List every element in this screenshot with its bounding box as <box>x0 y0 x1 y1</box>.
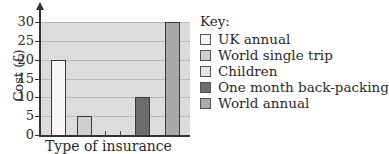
bar-one-month-back-packing <box>135 97 150 135</box>
bar-world-annual <box>165 22 180 135</box>
y-tick-label: 30 <box>12 15 34 28</box>
bar-uk-annual <box>51 60 66 135</box>
legend-label: World annual <box>218 95 309 111</box>
legend-item: UK annual <box>200 31 389 47</box>
legend-swatch-icon <box>200 82 211 93</box>
y-tick-mark <box>35 116 40 117</box>
legend-swatch-icon <box>200 98 211 109</box>
legend-label: One month back-packing <box>218 79 389 95</box>
y-tick-mark <box>35 135 40 136</box>
x-axis-title: Type of insurance <box>45 138 172 154</box>
legend-item: World single trip <box>200 47 389 63</box>
legend-title: Key: <box>200 13 389 29</box>
y-axis-title: Cost (£) <box>11 46 26 106</box>
legend-item: World annual <box>200 95 389 111</box>
legend-label: UK annual <box>218 31 290 47</box>
y-tick-mark <box>35 97 40 98</box>
y-tick-mark <box>35 41 40 42</box>
legend-swatch-icon <box>200 66 211 77</box>
y-tick-mark <box>35 79 40 80</box>
bar-world-single-trip <box>77 116 92 135</box>
bar-children-zero-marker <box>105 131 106 135</box>
legend: Key: UK annualWorld single tripChildrenO… <box>200 13 389 111</box>
legend-label: Children <box>218 63 277 79</box>
legend-item: Children <box>200 63 389 79</box>
y-tick-label: 0 <box>12 128 34 141</box>
bar-children-zero-marker <box>120 131 121 135</box>
y-tick-mark <box>35 60 40 61</box>
legend-label: World single trip <box>218 47 333 63</box>
legend-swatch-icon <box>200 50 211 61</box>
y-tick-mark <box>35 22 40 23</box>
legend-item: One month back-packing <box>200 79 389 95</box>
legend-swatch-icon <box>200 34 211 45</box>
legend-items: UK annualWorld single tripChildrenOne mo… <box>200 31 389 111</box>
y-tick-label: 5 <box>12 109 34 122</box>
x-axis <box>39 135 190 137</box>
